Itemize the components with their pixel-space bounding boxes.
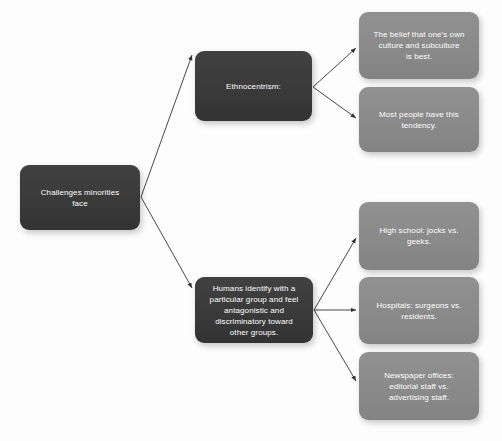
node-belief[interactable]: The belief that one's own culture and su… [359,12,479,79]
edge-arrow [141,55,192,197]
node-label: High school: jocks vs. geeks. [367,225,471,247]
node-tendency[interactable]: Most people have this tendency. [359,87,479,152]
node-label: The belief that one's own culture and su… [367,29,471,62]
node-root[interactable]: Challenges minorities face [20,165,140,230]
node-hospitals[interactable]: Hospitals: surgeons vs. residents. [359,277,479,344]
node-label: Most people have this tendency. [367,109,471,131]
node-highschool[interactable]: High school: jocks vs. geeks. [359,202,479,270]
node-label: Newspaper offices: editorial staff vs. a… [367,370,471,403]
node-label: Humans identify with a particular group … [203,283,305,338]
node-newspaper[interactable]: Newspaper offices: editorial staff vs. a… [359,352,479,420]
node-label: Hospitals: surgeons vs. residents. [367,300,471,322]
node-label: Ethnocentrism: [203,81,304,92]
node-ethnocentrism[interactable]: Ethnocentrism: [195,51,312,121]
node-label: Challenges minorities face [28,187,132,209]
edge-arrow [313,48,356,87]
edge-arrow [314,310,356,381]
edge-arrow [314,238,356,310]
edge-arrow [313,87,356,118]
edge-arrow [141,197,192,288]
diagram-canvas: Challenges minorities faceEthnocentrism:… [0,0,502,441]
node-ingroup[interactable]: Humans identify with a particular group … [195,277,313,343]
